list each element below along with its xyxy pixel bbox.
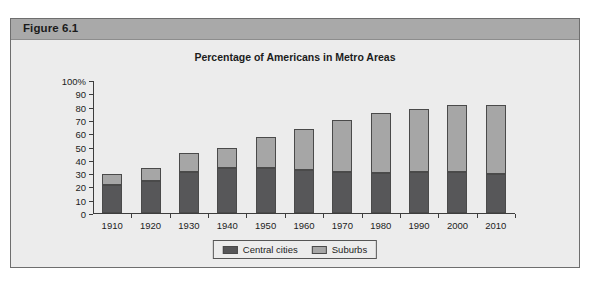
y-axis-tick-label: 20 — [75, 182, 86, 193]
bar-segment — [102, 185, 122, 213]
bar-stack — [409, 109, 429, 213]
x-axis-tick — [170, 214, 171, 218]
bar-segment — [294, 129, 314, 170]
y-axis-tick-label: 70 — [75, 115, 86, 126]
bar-segment — [371, 113, 391, 173]
x-axis-tick-label: 1920 — [140, 220, 161, 231]
x-axis-tick-label: 2000 — [447, 220, 468, 231]
y-axis-tick-label: 0 — [81, 209, 86, 220]
y-axis-tick — [89, 214, 93, 215]
y-axis-tick — [89, 148, 93, 149]
legend-swatch-icon-suburbs — [312, 246, 327, 254]
bar-segment — [486, 174, 506, 213]
x-axis-tick-label: 1930 — [178, 220, 199, 231]
bar-stack — [102, 174, 122, 213]
bar-segment — [447, 105, 467, 172]
y-axis-tick-label: 40 — [75, 155, 86, 166]
bar-stack — [179, 153, 199, 213]
legend-item-suburbs: Suburbs — [312, 244, 367, 255]
y-axis-tick — [89, 174, 93, 175]
y-axis-tick-label: 10 — [75, 195, 86, 206]
y-axis-tick — [89, 94, 93, 95]
x-axis-tick-label: 1940 — [217, 220, 238, 231]
bar-segment — [447, 172, 467, 213]
legend-swatch-icon-central-cities — [223, 246, 238, 254]
x-axis-tick — [131, 214, 132, 218]
x-axis-line — [93, 213, 515, 214]
legend-item-central-cities: Central cities — [223, 244, 298, 255]
chart-legend: Central cities Suburbs — [213, 240, 377, 259]
bar-stack — [447, 105, 467, 213]
x-axis-tick — [323, 214, 324, 218]
y-axis-tick — [89, 81, 93, 82]
bar-stack — [217, 148, 237, 213]
x-axis-tick — [477, 214, 478, 218]
y-axis-tick — [89, 121, 93, 122]
legend-label-suburbs: Suburbs — [332, 244, 367, 255]
bar-segment — [256, 168, 276, 213]
bar-stack — [486, 105, 506, 213]
legend-label-central-cities: Central cities — [243, 244, 298, 255]
y-axis-tick-label: 80 — [75, 102, 86, 113]
bar-stack — [371, 113, 391, 213]
x-axis-tick-label: 1980 — [370, 220, 391, 231]
bar-segment — [141, 168, 161, 181]
chart-title: Percentage of Americans in Metro Areas — [11, 51, 579, 63]
bar-stack — [332, 120, 352, 213]
x-axis-tick — [438, 214, 439, 218]
y-axis-tick-label: 60 — [75, 129, 86, 140]
x-axis-tick — [400, 214, 401, 218]
x-axis-tick-label: 1970 — [332, 220, 353, 231]
figure-caption-band: Figure 6.1 — [11, 19, 579, 40]
x-axis-tick — [246, 214, 247, 218]
bar-segment — [371, 173, 391, 213]
y-axis-tick-label: 90 — [75, 89, 86, 100]
y-axis-tick — [89, 134, 93, 135]
y-axis-tick-label: 50 — [75, 142, 86, 153]
x-axis-tick — [208, 214, 209, 218]
bar-segment — [179, 172, 199, 213]
x-axis-tick-label: 1910 — [102, 220, 123, 231]
bar-segment — [256, 137, 276, 168]
plot-area: 0102030405060708090100% 1910192019301940… — [93, 81, 515, 214]
bar-stack — [256, 137, 276, 213]
bar-segment — [217, 148, 237, 168]
x-axis-tick-label: 2010 — [485, 220, 506, 231]
y-axis-tick — [89, 108, 93, 109]
bar-segment — [409, 172, 429, 213]
y-axis-tick — [89, 161, 93, 162]
bar-segment — [141, 181, 161, 213]
x-axis-tick — [515, 214, 516, 218]
figure-root: Figure 6.1 Percentage of Americans in Me… — [0, 0, 590, 291]
x-axis-tick-label: 1990 — [409, 220, 430, 231]
figure-frame: Figure 6.1 Percentage of Americans in Me… — [10, 18, 580, 268]
x-axis-tick-label: 1960 — [293, 220, 314, 231]
bar-segment — [102, 174, 122, 185]
bar-stack — [141, 168, 161, 213]
x-axis-tick — [285, 214, 286, 218]
bar-segment — [217, 168, 237, 213]
bar-segment — [409, 109, 429, 172]
y-axis-tick-label: 30 — [75, 169, 86, 180]
y-axis-tick-label: 100% — [62, 76, 86, 87]
y-axis-line — [93, 81, 94, 214]
x-axis-tick — [362, 214, 363, 218]
x-axis-tick-label: 1950 — [255, 220, 276, 231]
bar-stack — [294, 129, 314, 213]
bar-segment — [179, 153, 199, 172]
bar-segment — [332, 120, 352, 172]
bar-segment — [294, 170, 314, 213]
figure-number-label: Figure 6.1 — [23, 22, 78, 34]
y-axis-tick — [89, 187, 93, 188]
bar-segment — [332, 172, 352, 213]
chart-panel: Percentage of Americans in Metro Areas 0… — [11, 40, 579, 267]
bar-segment — [486, 105, 506, 174]
y-axis-tick — [89, 201, 93, 202]
